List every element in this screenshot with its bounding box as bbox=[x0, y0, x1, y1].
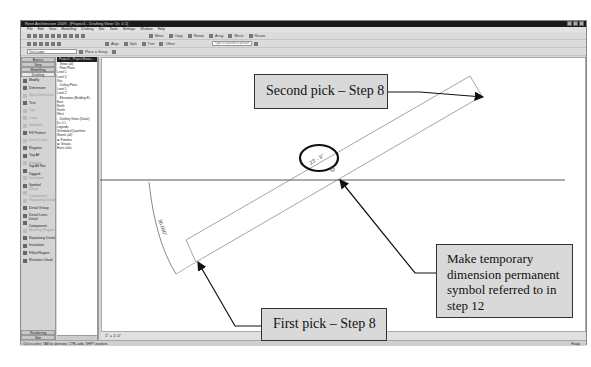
callout-first-pick: First pick – Step 8 bbox=[261, 308, 387, 341]
first-pick-arrow bbox=[198, 262, 261, 326]
temp-dimension-text: 23' - 9" bbox=[308, 153, 325, 166]
callout-second-pick: Second pick – Step 8 bbox=[254, 74, 388, 109]
permanent-symbol-arrow bbox=[340, 180, 436, 273]
callout-make-permanent: Make temporary dimension permanent symbo… bbox=[436, 244, 573, 318]
